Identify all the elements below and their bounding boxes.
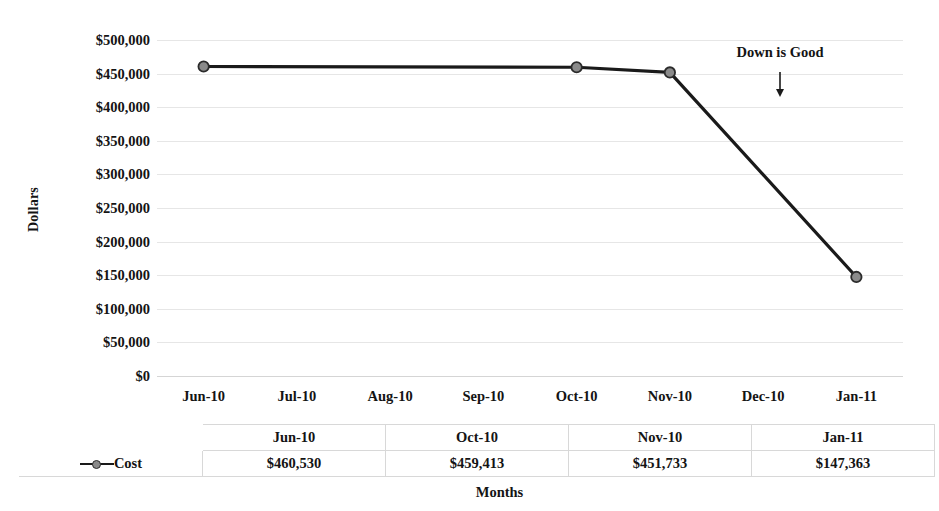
data-table: Jun-10Oct-10Nov-10Jan-11 Cost $460,530$4… [19, 424, 935, 477]
x-axis-tick-label: Oct-10 [530, 388, 623, 412]
y-axis-tick-label: $250,000 [40, 201, 150, 216]
table-row-headers: Jun-10Oct-10Nov-10Jan-11 [20, 425, 935, 451]
table-value-cell: $451,733 [569, 451, 752, 477]
data-point-marker [571, 62, 581, 72]
y-axis-tick-label: $500,000 [40, 33, 150, 48]
y-axis-tick-label: $0 [40, 369, 150, 384]
x-axis-tick-label: Jun-10 [157, 388, 250, 412]
x-axis-title: Months [0, 484, 939, 501]
legend-label: Cost [114, 455, 142, 472]
table-header-cell: Oct-10 [386, 425, 569, 451]
data-point-marker [665, 67, 675, 77]
y-axis-tick-label: $300,000 [40, 167, 150, 182]
table-header-cell: Jan-11 [752, 425, 935, 451]
table-value-cell: $460,530 [203, 451, 386, 477]
x-axis-tick-label: Sep-10 [437, 388, 530, 412]
y-axis-tick-labels: $500,000$450,000$400,000$350,000$300,000… [32, 0, 150, 400]
annotation-down-is-good: Down is Good [697, 44, 863, 61]
line-chart: Dollars $500,000$450,000$400,000$350,000… [0, 0, 939, 511]
data-point-marker [851, 272, 861, 282]
legend-marker-icon [80, 458, 114, 470]
gridline [157, 376, 903, 377]
table-header-cell: Nov-10 [569, 425, 752, 451]
x-axis-tick-label: Jul-10 [250, 388, 343, 412]
x-axis-tick-label: Jan-11 [810, 388, 903, 412]
x-axis-tick-label: Nov-10 [623, 388, 716, 412]
table-header-cell: Jun-10 [203, 425, 386, 451]
table-row-values: Cost $460,530$459,413$451,733$147,363 [20, 451, 935, 477]
legend-blank-cell [20, 425, 203, 451]
y-axis-tick-label: $150,000 [40, 268, 150, 283]
x-axis-tick-labels: Jun-10Jul-10Aug-10Sep-10Oct-10Nov-10Dec-… [157, 388, 903, 412]
y-axis-tick-label: $200,000 [40, 235, 150, 250]
x-axis-title-text: Months [476, 484, 524, 500]
table-value-cell: $459,413 [386, 451, 569, 477]
data-point-marker [198, 61, 208, 71]
series-line-cost [204, 67, 857, 277]
plot-area [157, 40, 903, 376]
x-axis-tick-label: Dec-10 [717, 388, 810, 412]
table-value-cell: $147,363 [752, 451, 935, 477]
down-arrow-icon [770, 72, 790, 98]
y-axis-tick-label: $350,000 [40, 134, 150, 149]
y-axis-tick-label: $100,000 [40, 302, 150, 317]
legend-item-cost: Cost [20, 451, 203, 477]
series-cost [157, 40, 903, 376]
y-axis-tick-label: $400,000 [40, 100, 150, 115]
y-axis-tick-label: $450,000 [40, 67, 150, 82]
y-axis-tick-label: $50,000 [40, 335, 150, 350]
x-axis-tick-label: Aug-10 [344, 388, 437, 412]
